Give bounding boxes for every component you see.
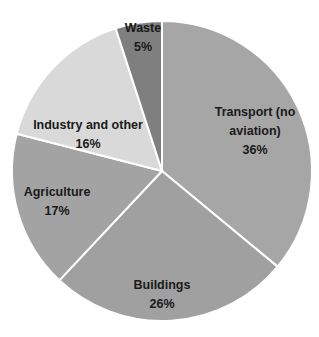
pie-slices [12, 21, 312, 321]
pie-chart: Transport (noaviation)36%Buildings26%Agr… [0, 0, 319, 337]
